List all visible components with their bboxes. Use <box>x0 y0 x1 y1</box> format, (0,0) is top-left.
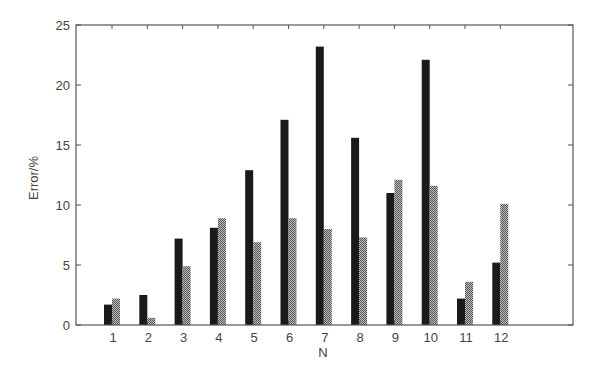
y-tick-label: 0 <box>63 318 70 333</box>
y-tick-label: 25 <box>56 18 70 33</box>
x-tick-label: 12 <box>494 330 508 345</box>
bar-series1-n9 <box>386 193 394 325</box>
bar-series2-n12 <box>500 204 508 325</box>
bar-series1-n2 <box>139 295 147 325</box>
x-tick-label: 8 <box>356 330 363 345</box>
bar-series2-n3 <box>183 266 191 325</box>
bar-series1-n11 <box>457 299 465 325</box>
bar-series1-n4 <box>210 228 218 325</box>
x-tick-label: 4 <box>215 330 222 345</box>
bar-series2-n7 <box>324 229 332 325</box>
bar-series2-n1 <box>112 299 120 325</box>
x-tick-label: 6 <box>286 330 293 345</box>
bar-series2-n8 <box>359 237 367 325</box>
bar-series2-n11 <box>465 282 473 325</box>
bar-series1-n7 <box>316 47 324 325</box>
x-tick-label: 7 <box>321 330 328 345</box>
bar-series2-n6 <box>289 218 297 325</box>
y-tick-label: 15 <box>56 138 70 153</box>
y-tick-label: 5 <box>63 258 70 273</box>
bar-series1-n1 <box>104 305 112 325</box>
x-tick-label: 1 <box>109 330 116 345</box>
x-axis-ticks: 123456789101112 <box>109 25 508 345</box>
x-axis-label: N <box>318 345 327 360</box>
y-tick-label: 10 <box>56 198 70 213</box>
bar-chart: 0510152025 123456789101112 N Error/% <box>0 0 604 371</box>
bar-series1-n8 <box>351 138 359 325</box>
x-tick-label: 2 <box>145 330 152 345</box>
bar-series2-n2 <box>147 318 155 325</box>
bar-series1-n6 <box>281 120 289 325</box>
bar-series1-n10 <box>422 60 430 325</box>
y-axis-label: Error/% <box>26 156 41 201</box>
x-tick-label: 11 <box>459 330 473 345</box>
x-tick-label: 9 <box>392 330 399 345</box>
x-tick-label: 10 <box>423 330 437 345</box>
bar-series1-n12 <box>492 263 500 325</box>
bar-series1-n3 <box>175 239 183 325</box>
bar-series2-n4 <box>218 218 226 325</box>
bars-group <box>104 47 508 325</box>
x-tick-label: 3 <box>180 330 187 345</box>
bar-series2-n5 <box>253 242 261 325</box>
x-tick-label: 5 <box>251 330 258 345</box>
bar-series2-n10 <box>430 186 438 325</box>
y-tick-label: 20 <box>56 78 70 93</box>
bar-series1-n5 <box>245 170 253 325</box>
bar-series2-n9 <box>394 180 402 325</box>
